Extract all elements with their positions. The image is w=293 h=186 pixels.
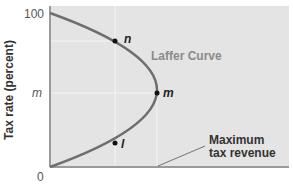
point-label-n: n xyxy=(124,32,131,46)
point-m xyxy=(155,91,160,96)
point-label-m: m xyxy=(163,86,174,100)
y-tick-m: m xyxy=(32,86,42,100)
point-n xyxy=(113,39,118,44)
laffer-curve-chart: n m l Laffer Curve Maximum tax revenue 1… xyxy=(0,0,293,186)
point-l xyxy=(113,141,118,146)
y-tick-100: 100 xyxy=(24,7,44,21)
annotation-line-2: tax revenue xyxy=(209,146,276,160)
y-tick-0: 0 xyxy=(37,170,44,184)
curve-label: Laffer Curve xyxy=(151,49,222,63)
y-axis-label: Tax rate (percent) xyxy=(2,40,16,140)
annotation-line-1: Maximum xyxy=(209,133,264,147)
